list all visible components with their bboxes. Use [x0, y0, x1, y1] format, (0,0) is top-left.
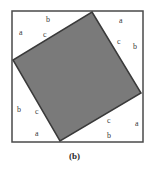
label-top-right-c: c	[117, 37, 121, 46]
label-top-right-a: a	[119, 16, 123, 25]
label-bottom-left-a: a	[35, 129, 39, 138]
label-bottom-right-c: c	[107, 116, 111, 125]
label-top-right-b: b	[133, 42, 137, 51]
figure-caption: (b)	[0, 151, 149, 161]
label-bottom-right-a: a	[135, 119, 139, 128]
label-bottom-right-b: b	[107, 131, 111, 140]
label-top-left-c: c	[43, 30, 47, 39]
pythagorean-proof-diagram: b a c a c b b c a c a b	[0, 0, 149, 173]
label-top-left-a: a	[19, 28, 23, 37]
label-top-left-b: b	[46, 15, 50, 24]
label-bottom-left-b: b	[17, 105, 21, 114]
label-bottom-left-c: c	[35, 107, 39, 116]
